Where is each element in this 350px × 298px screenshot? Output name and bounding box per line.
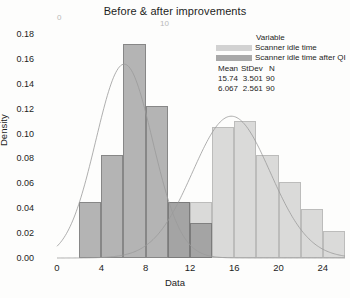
stats-cell: 90 — [266, 84, 278, 94]
plot-area — [57, 34, 345, 258]
stats-header-row: MeanStDevN — [218, 64, 278, 74]
x-tick-24: 24 — [318, 262, 329, 273]
stats-header-n: N — [266, 64, 278, 74]
y-tick-0.04: 0.04 — [0, 203, 34, 213]
x-axis-title: Data — [0, 277, 350, 288]
x-tick-16: 16 — [229, 262, 240, 273]
legend-swatch-after — [216, 55, 252, 61]
y-tick-0.02: 0.02 — [0, 228, 34, 238]
normal-curve — [57, 116, 345, 258]
stats-table: MeanStDevN 15.743.501906.0672.56190 — [218, 64, 278, 95]
legend-label-before: Scanner idle time — [255, 43, 317, 52]
legend-title: Variable — [256, 33, 346, 42]
chart-title: Before & after improvements — [0, 5, 350, 17]
normal-curve — [57, 64, 345, 258]
stats-row: 15.743.50190 — [218, 74, 278, 84]
stats-header-mean: Mean — [218, 64, 241, 74]
stats-cell: 15.74 — [218, 74, 241, 84]
y-tick-0.16: 0.16 — [0, 54, 34, 64]
x-tick-20: 20 — [273, 262, 284, 273]
x-tick-0: 0 — [54, 262, 59, 273]
y-tick-0.06: 0.06 — [0, 178, 34, 188]
stats-cell: 3.501 — [241, 74, 266, 84]
legend-label-after: Scanner idle time after QI — [255, 53, 346, 62]
legend-item-before: Scanner idle time — [216, 43, 346, 52]
stats-row: 6.0672.56190 — [218, 84, 278, 94]
x-tick-8: 8 — [143, 262, 148, 273]
stats-header-stdev: StDev — [241, 64, 266, 74]
chart-root: 0 10 Before & after improvements Density… — [0, 0, 350, 298]
y-tick-0.00: 0.00 — [0, 253, 34, 263]
y-tick-0.08: 0.08 — [0, 153, 34, 163]
stats-cell: 6.067 — [218, 84, 241, 94]
normal-fit-curves — [57, 34, 345, 258]
x-tick-12: 12 — [185, 262, 196, 273]
y-tick-0.10: 0.10 — [0, 129, 34, 139]
y-tick-0.14: 0.14 — [0, 79, 34, 89]
stats-body: 15.743.501906.0672.56190 — [218, 74, 278, 94]
y-tick-0.18: 0.18 — [0, 29, 34, 39]
x-tick-4: 4 — [99, 262, 104, 273]
legend-item-after: Scanner idle time after QI — [216, 53, 346, 62]
stats-cell: 90 — [266, 74, 278, 84]
scan-artifact-right: 10 — [160, 19, 169, 28]
stats-cell: 2.561 — [241, 84, 266, 94]
legend-swatch-before — [216, 45, 252, 51]
legend: Variable Scanner idle time Scanner idle … — [216, 33, 346, 62]
y-tick-0.12: 0.12 — [0, 104, 34, 114]
